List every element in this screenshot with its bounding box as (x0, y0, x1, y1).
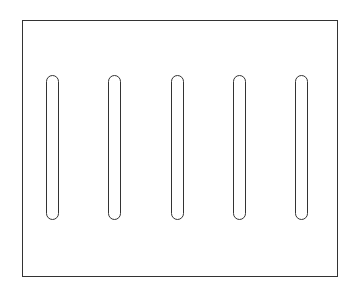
slot-1 (46, 75, 59, 220)
slot-2 (108, 75, 121, 220)
slot-4 (233, 75, 246, 220)
slot-5 (295, 75, 308, 220)
slot-3 (171, 75, 184, 220)
